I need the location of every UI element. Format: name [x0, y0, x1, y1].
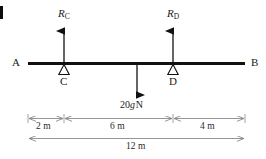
- reaction-label-rc-base: R: [58, 7, 65, 19]
- dimension-label-4m: 4 m: [200, 122, 215, 132]
- beam-label-b: B: [251, 57, 258, 68]
- reaction-label-rd-subscript: D: [174, 12, 180, 21]
- beam-diagram-canvas: [0, 0, 266, 159]
- load-gravity-symbol: g: [130, 99, 135, 110]
- reaction-label-rc: RC: [58, 8, 70, 20]
- beam-diagram-figure: A B C D RC RD 20g N 2 m 6 m 4 m 12 m: [0, 0, 266, 159]
- dimension-label-12m: 12 m: [126, 142, 145, 152]
- support-label-d: D: [169, 76, 177, 87]
- dimension-label-6m: 6 m: [110, 122, 125, 132]
- load-unit: N: [136, 99, 143, 110]
- load-label-20g-n: 20g N: [120, 100, 143, 110]
- support-triangle-c: [59, 65, 69, 75]
- support-label-c: C: [60, 76, 67, 87]
- reaction-label-rd: RD: [167, 8, 179, 20]
- reaction-label-rd-base: R: [167, 7, 174, 19]
- reaction-label-rc-subscript: C: [65, 12, 70, 21]
- beam-label-a: A: [12, 57, 20, 68]
- load-magnitude: 20: [120, 99, 130, 110]
- dimension-label-2m: 2 m: [36, 122, 51, 132]
- support-triangle-d: [168, 65, 178, 75]
